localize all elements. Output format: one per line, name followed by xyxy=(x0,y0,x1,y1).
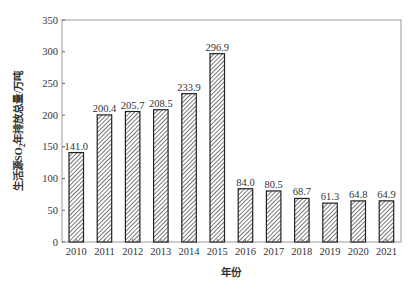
x-tick-label: 2017 xyxy=(263,246,284,257)
bar-2016: 84.0 xyxy=(236,177,254,242)
bar-2011: 200.4 xyxy=(93,103,117,242)
bar-value-label: 141.0 xyxy=(64,141,88,152)
x-tick-label: 2018 xyxy=(291,246,312,257)
bar-chart: 050100150200250300350 141.0200.4205.7208… xyxy=(0,0,415,289)
bar-value-label: 296.9 xyxy=(205,42,229,53)
bar-2013: 208.5 xyxy=(149,98,173,242)
x-tick-label: 2012 xyxy=(122,246,143,257)
bar-value-label: 61.3 xyxy=(321,191,339,202)
bar-2021: 64.9 xyxy=(377,189,395,242)
bar-2012: 205.7 xyxy=(121,100,145,242)
bar-rect xyxy=(210,54,225,242)
x-tick-label: 2015 xyxy=(207,246,228,257)
bar-2018: 68.7 xyxy=(293,186,311,242)
bar-value-label: 64.8 xyxy=(349,189,367,200)
bar-rect xyxy=(351,201,366,242)
x-tick-label: 2020 xyxy=(348,246,369,257)
bar-2020: 64.8 xyxy=(349,189,367,242)
bar-value-label: 208.5 xyxy=(149,98,173,109)
y-tick-label: 200 xyxy=(42,110,58,121)
bar-value-label: 233.9 xyxy=(177,82,201,93)
plot-area-border xyxy=(62,20,401,242)
bar-2010: 141.0 xyxy=(64,141,88,242)
bar-rect xyxy=(266,191,281,242)
x-tick-label: 2021 xyxy=(376,246,397,257)
x-tick-label: 2014 xyxy=(179,246,201,257)
y-tick-label: 50 xyxy=(48,205,59,216)
bar-2019: 61.3 xyxy=(321,191,339,242)
x-tick-label: 2010 xyxy=(66,246,87,257)
plot-frame xyxy=(62,20,401,242)
bar-rect xyxy=(238,189,253,242)
y-axis-title: 生活源SO2年排放总量/万吨 xyxy=(12,70,27,192)
y-tick-label: 300 xyxy=(42,46,58,57)
x-axis-title: 年份 xyxy=(221,266,242,278)
bar-2017: 80.5 xyxy=(264,179,282,242)
bar-value-label: 200.4 xyxy=(93,103,117,114)
bar-value-label: 84.0 xyxy=(236,177,254,188)
bar-rect xyxy=(69,153,84,242)
bar-rect xyxy=(182,94,197,242)
y-tick-label: 250 xyxy=(42,78,58,89)
bar-rect xyxy=(295,198,310,242)
bar-value-label: 205.7 xyxy=(121,100,145,111)
y-tick-label: 100 xyxy=(42,173,58,184)
x-tick-label: 2016 xyxy=(235,246,256,257)
bar-rect xyxy=(154,110,169,242)
x-tick-label: 2019 xyxy=(320,246,341,257)
bar-rect xyxy=(323,203,338,242)
x-tick-label: 2013 xyxy=(150,246,171,257)
bar-value-label: 64.9 xyxy=(377,189,395,200)
bar-2015: 296.9 xyxy=(205,42,229,242)
y-tick-label: 350 xyxy=(42,15,58,26)
bar-rect xyxy=(379,201,394,242)
y-tick-label: 0 xyxy=(53,237,58,248)
bars: 141.0200.4205.7208.5233.9296.984.080.568… xyxy=(64,42,395,242)
bar-value-label: 68.7 xyxy=(293,186,311,197)
y-tick-label: 150 xyxy=(42,141,58,152)
bar-rect xyxy=(97,115,112,242)
bar-2014: 233.9 xyxy=(177,82,201,242)
x-tick-label: 2011 xyxy=(94,246,115,257)
bar-value-label: 80.5 xyxy=(264,179,282,190)
bar-rect xyxy=(125,112,139,242)
